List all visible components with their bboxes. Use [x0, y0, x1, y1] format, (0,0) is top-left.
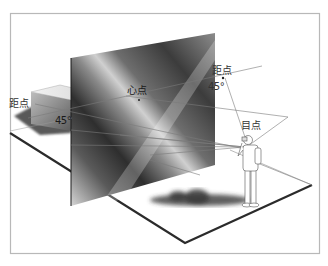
center-point-label: 心点: [127, 86, 146, 96]
distance-point-marker: [222, 77, 224, 79]
angle-right-label: 45°: [208, 82, 224, 92]
distance-point-left-label: 距点: [9, 99, 28, 109]
distance-point-right-label: 距点: [212, 66, 231, 76]
center-point-marker: [138, 99, 140, 101]
angle-left-label: 45°: [55, 116, 71, 126]
eye-point-label: 目点: [241, 121, 260, 131]
perspective-diagram: [0, 0, 328, 266]
